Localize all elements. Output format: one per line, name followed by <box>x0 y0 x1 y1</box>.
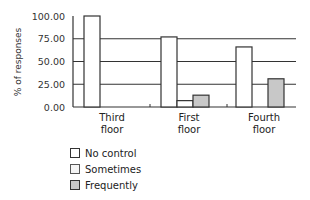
y-tick-label: 50.00 <box>38 56 65 67</box>
legend-label: Sometimes <box>85 164 141 175</box>
bar-frequently <box>193 95 209 107</box>
category-label: floor <box>101 124 125 135</box>
bar-no-control <box>84 16 100 107</box>
bar-no-control <box>161 37 177 107</box>
legend-label: No control <box>85 148 136 159</box>
y-tick-label: 0.00 <box>44 102 65 113</box>
category-label: Fourth <box>248 112 280 123</box>
legend: No control Sometimes Frequently <box>70 145 141 193</box>
legend-item-frequently: Frequently <box>70 177 141 193</box>
category-label: floor <box>178 124 202 135</box>
bar-sometimes <box>177 101 193 107</box>
y-tick-label: 100.00 <box>32 11 65 22</box>
y-tick-label: 25.00 <box>38 79 65 90</box>
y-tick-label: 75.00 <box>38 33 65 44</box>
legend-item-sometimes: Sometimes <box>70 161 141 177</box>
y-axis-label: % of responses <box>13 27 23 96</box>
legend-item-no-control: No control <box>70 145 141 161</box>
legend-swatch-no-control <box>70 148 80 158</box>
legend-swatch-sometimes <box>70 164 80 174</box>
bar-frequently <box>268 79 284 107</box>
bar-chart: % of responses0.0025.0050.0075.00100.00T… <box>0 0 310 145</box>
legend-label: Frequently <box>85 180 138 191</box>
bar-no-control <box>236 47 252 107</box>
category-label: Third <box>98 112 125 123</box>
category-label: First <box>178 112 199 123</box>
category-label: floor <box>253 124 277 135</box>
legend-swatch-frequently <box>70 180 80 190</box>
